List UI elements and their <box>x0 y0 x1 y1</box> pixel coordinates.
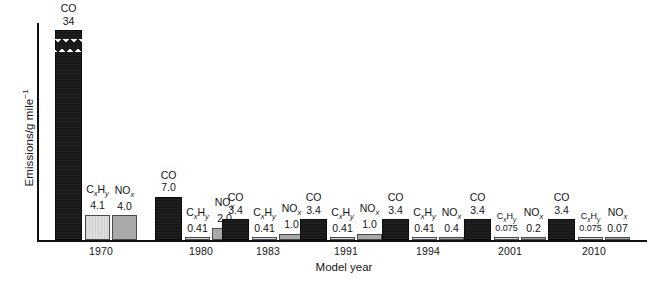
species-label-nox-2010: NOx <box>595 206 641 222</box>
plot-area: CO34CxHy4.1NOx4.01970CO7.0CxHy0.41NOx2.0… <box>0 0 654 286</box>
bar-cxhy-2010 <box>578 237 603 240</box>
bar-annotation-co-1980: CO7.0 <box>146 169 192 194</box>
species-label-co-1994: CO <box>373 191 419 203</box>
bar-group-2010: CO3.4CxHy0.075NOx0.072010 <box>548 0 640 286</box>
value-label-co-1970: 34 <box>46 15 92 27</box>
species-label-co-1970: CO <box>46 2 92 14</box>
bar-annotation-co-1970: CO34 <box>46 2 92 27</box>
bar-annotation-nox-1970: NOx4.0 <box>102 184 148 212</box>
species-label-co-1991: CO <box>291 191 337 203</box>
bar-group-1991: CO3.4CxHy0.41NOx1.01991 <box>300 0 392 286</box>
x-tick-label-1994: 1994 <box>382 245 474 257</box>
bar-nox-1991 <box>357 234 382 240</box>
species-label-co-2010: CO <box>539 191 585 203</box>
bar-nox-2010 <box>605 237 630 240</box>
value-label-nox-2010: 0.07 <box>595 222 641 234</box>
species-label-nox-1970: NOx <box>102 184 148 200</box>
species-label-co-2001: CO <box>455 191 501 203</box>
x-tick-label-2001: 2001 <box>464 245 556 257</box>
emissions-bar-chart-figure: Emissions/g mile−1 CO34CxHy4.1NOx4.01970… <box>0 0 654 286</box>
bar-cxhy-1983 <box>252 237 277 240</box>
bar-nox-1994 <box>439 237 464 240</box>
bar-cxhy-1980 <box>185 237 210 240</box>
value-label-nox-1970: 4.0 <box>102 200 148 212</box>
value-label-co-1980: 7.0 <box>146 181 192 193</box>
x-axis-title-text: Model year <box>316 261 373 273</box>
bar-group-1994: CO3.4CxHy0.41NOx0.41994 <box>382 0 474 286</box>
x-tick-label-1970: 1970 <box>55 245 147 257</box>
x-tick-label-1991: 1991 <box>300 245 392 257</box>
bar-group-1970: CO34CxHy4.1NOx4.01970 <box>55 0 147 286</box>
bar-nox-2001 <box>521 237 546 240</box>
bar-group-2001: CO3.4CxHy0.075NOx0.22001 <box>464 0 556 286</box>
bar-nox-1970 <box>112 215 137 240</box>
x-axis-title: Model year <box>0 261 654 273</box>
bar-cxhy-1970 <box>85 215 110 240</box>
species-label-co-1983: CO <box>213 191 259 203</box>
bar-cxhy-1991 <box>330 237 355 240</box>
species-label-co-1980: CO <box>146 169 192 181</box>
bar-cxhy-2001 <box>494 237 519 240</box>
bar-annotation-nox-2010: NOx0.07 <box>595 206 641 234</box>
bar-cxhy-1994 <box>412 237 437 240</box>
x-tick-label-2010: 2010 <box>548 245 640 257</box>
